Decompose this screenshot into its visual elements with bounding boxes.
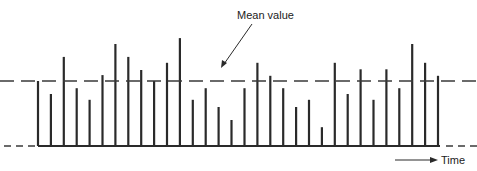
mean-value-annotation: Mean value [237, 9, 294, 21]
time-arrowhead-icon [430, 157, 438, 163]
bars-group [38, 38, 438, 146]
annotation-arrow-line [224, 24, 252, 64]
time-axis-label: Time [441, 154, 465, 166]
pulse-chart: Mean value Time [0, 0, 477, 171]
